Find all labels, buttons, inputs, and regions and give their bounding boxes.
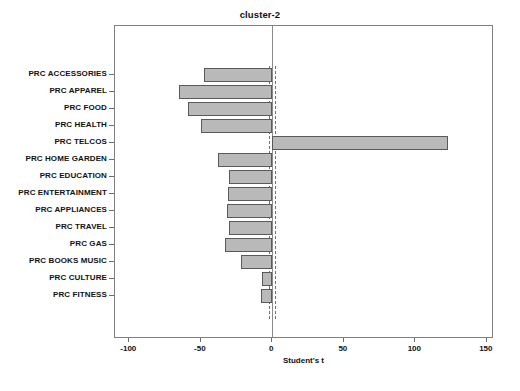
x-axis-tick-label: 150 bbox=[479, 344, 492, 353]
y-axis-label: PRC CULTURE bbox=[49, 273, 107, 283]
bar bbox=[241, 255, 272, 269]
x-axis-tick-label: 0 bbox=[269, 344, 273, 353]
y-axis-label: PRC EDUCATION bbox=[40, 171, 107, 181]
bar bbox=[218, 153, 272, 167]
x-axis-tick-label: 100 bbox=[408, 344, 421, 353]
y-axis-label: PRC BOOKS MUSIC bbox=[29, 256, 107, 266]
bar bbox=[272, 136, 448, 150]
bar bbox=[227, 204, 273, 218]
bar bbox=[229, 170, 272, 184]
x-axis-tick bbox=[271, 338, 272, 342]
bar bbox=[188, 102, 272, 116]
y-axis-label: PRC TRAVEL bbox=[55, 222, 107, 232]
bar bbox=[225, 238, 272, 252]
x-axis-tick-label: -50 bbox=[194, 344, 206, 353]
y-axis-label: PRC FOOD bbox=[64, 103, 107, 113]
chart-root: cluster-2 PRC ACCESSORIESPRC APPARELPRC … bbox=[0, 0, 520, 391]
y-axis-label: PRC APPLIANCES bbox=[35, 205, 107, 215]
plot-inner bbox=[115, 26, 492, 337]
bar bbox=[201, 119, 273, 133]
bar bbox=[229, 221, 272, 235]
x-axis-tick bbox=[486, 338, 487, 342]
zero-reference-line bbox=[272, 26, 273, 337]
y-axis-category-labels: PRC ACCESSORIESPRC APPARELPRC FOODPRC HE… bbox=[0, 25, 114, 338]
y-axis-label: PRC ENTERTAINMENT bbox=[18, 188, 107, 198]
y-axis-label: PRC HOME GARDEN bbox=[25, 154, 107, 164]
x-axis-tick bbox=[128, 338, 129, 342]
y-axis-label: PRC TELCOS bbox=[54, 137, 107, 147]
bar bbox=[179, 85, 272, 99]
x-axis-tick bbox=[200, 338, 201, 342]
bar bbox=[204, 68, 273, 82]
y-axis-label: PRC GAS bbox=[70, 239, 107, 249]
y-axis-label: PRC ACCESSORIES bbox=[28, 69, 107, 79]
x-axis-tick-label: 50 bbox=[338, 344, 347, 353]
y-axis-label: PRC HEALTH bbox=[55, 120, 107, 130]
chart-title: cluster-2 bbox=[0, 9, 520, 20]
x-axis-title: Student's t bbox=[114, 356, 493, 365]
x-axis-tick-label: -100 bbox=[120, 344, 136, 353]
plot-area bbox=[114, 25, 493, 338]
bar bbox=[262, 272, 272, 286]
bar bbox=[228, 187, 272, 201]
critical-value-line-positive bbox=[275, 66, 276, 319]
y-axis-label: PRC FITNESS bbox=[53, 290, 107, 300]
x-axis-tick bbox=[414, 338, 415, 342]
x-axis-tick bbox=[343, 338, 344, 342]
bar bbox=[261, 289, 272, 303]
y-axis-label: PRC APPAREL bbox=[49, 86, 107, 96]
